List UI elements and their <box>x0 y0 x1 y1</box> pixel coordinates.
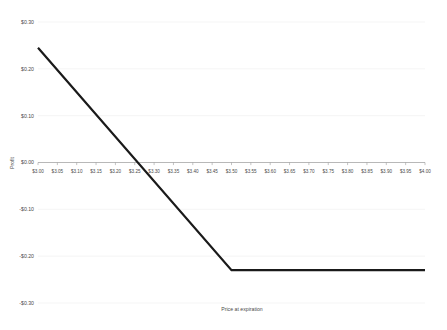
y-axis-title: Profit <box>9 156 15 169</box>
series-line <box>38 48 425 270</box>
y-tick-label: $0.20 <box>21 66 34 72</box>
x-tick-label: $3.65 <box>284 169 296 174</box>
x-tick-label: $3.90 <box>381 169 393 174</box>
x-tick-label: $3.70 <box>303 169 315 174</box>
x-tick-label: $3.50 <box>226 169 238 174</box>
x-tick-label: $3.60 <box>264 169 276 174</box>
x-tick-label: $3.30 <box>148 169 160 174</box>
x-tick-label: $4.00 <box>419 169 431 174</box>
x-tick-label: $3.10 <box>71 169 83 174</box>
y-tick-label: $0.10 <box>21 113 34 119</box>
y-tick-label: -$0.20 <box>19 253 34 259</box>
x-tick-label: $3.40 <box>187 169 199 174</box>
x-tick-label: $3.95 <box>400 169 412 174</box>
chart-canvas: $0.30$0.20$0.10$0.00-$0.10-$0.20-$0.30 $… <box>0 0 447 330</box>
x-tick-label: $3.85 <box>361 169 373 174</box>
x-tick-label: $3.80 <box>342 169 354 174</box>
y-tick-label: $0.30 <box>21 19 34 25</box>
x-tick-label: $3.15 <box>90 169 102 174</box>
y-tick-label: -$0.10 <box>19 206 34 212</box>
x-tick-label: $3.20 <box>110 169 122 174</box>
x-tick-label: $3.45 <box>206 169 218 174</box>
x-tick-label: $3.25 <box>129 169 141 174</box>
x-axis-title: Price at expiration <box>221 306 263 312</box>
data-series <box>38 48 425 270</box>
x-tick-label: $3.00 <box>32 169 44 174</box>
y-tick-label: -$0.30 <box>19 300 34 306</box>
y-tick-label: $0.00 <box>21 159 34 165</box>
y-tick-labels: $0.30$0.20$0.10$0.00-$0.10-$0.20-$0.30 <box>19 19 34 306</box>
x-tickmarks <box>38 163 425 166</box>
x-tick-label: $3.05 <box>52 169 64 174</box>
x-tick-label: $3.55 <box>245 169 257 174</box>
profit-chart: $0.30$0.20$0.10$0.00-$0.10-$0.20-$0.30 $… <box>0 0 447 330</box>
x-tick-labels: $3.00$3.05$3.10$3.15$3.20$3.25$3.30$3.35… <box>32 169 431 174</box>
x-tick-label: $3.75 <box>323 169 335 174</box>
x-tick-label: $3.35 <box>168 169 180 174</box>
